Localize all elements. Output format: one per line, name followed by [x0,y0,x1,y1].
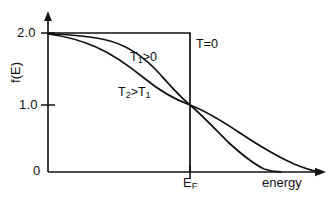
y-tick-label-1: 1.0 [19,98,38,111]
fermi-energy-label: EF [183,176,197,191]
fermi-label-subscript: F [192,181,198,191]
t1-curve [48,34,281,172]
series-t-zero [48,33,190,172]
y-tick-label-0: 0 [33,164,40,177]
t1-base: T [130,50,138,64]
t-zero-step-curve [48,33,190,172]
t1-rest: >0 [143,50,157,64]
t2-subscript-2: 1 [146,90,151,100]
y-tick-label-2: 2.0 [17,26,36,39]
series-t1 [48,34,281,172]
annotation-t-zero: T=0 [196,38,218,51]
series-t2 [48,34,318,172]
y-axis-arrowhead [44,11,52,21]
y-axis-title: f(E) [9,51,22,95]
t2-base: T [118,85,126,99]
annotation-t1: T1>0 [130,51,157,65]
annotation-t2: T2>T1 [118,86,151,100]
fermi-label-base: E [183,175,192,190]
t2-curve [48,34,318,172]
fermi-dirac-distribution-figure: 2.0 1.0 0 f(E) energy EF T=0 T1>0 T2>T1 [0,0,333,207]
x-axis-title: energy [262,176,302,189]
t2-mid: >T [131,85,146,99]
